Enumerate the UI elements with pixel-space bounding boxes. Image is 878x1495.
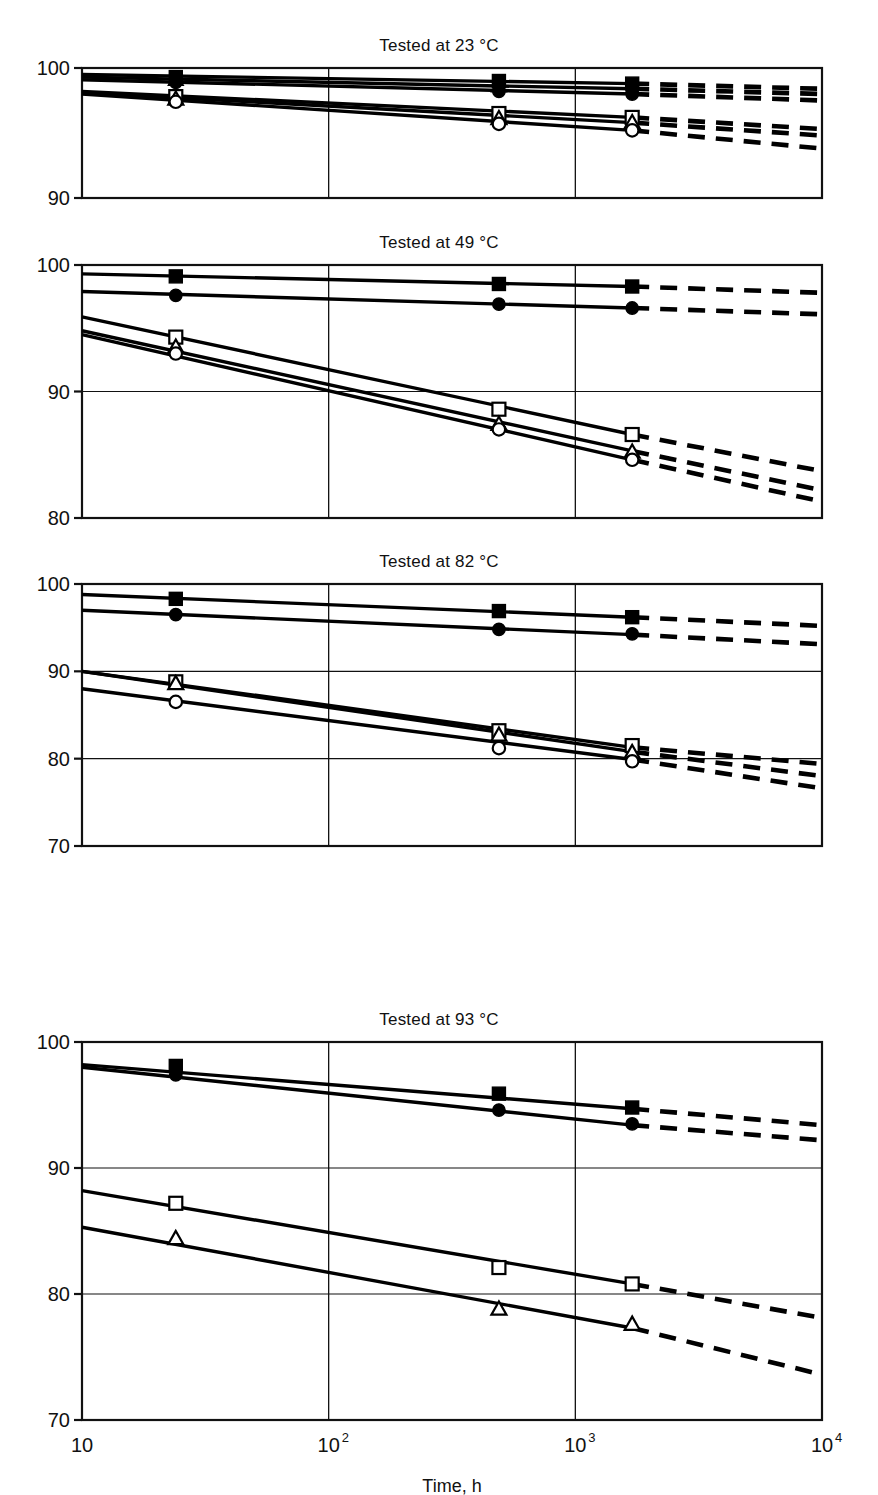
data-point-filled-circle xyxy=(626,302,638,314)
x-tick-label: 10 xyxy=(318,1434,340,1456)
data-point-filled-circle xyxy=(170,1069,182,1081)
data-point-open-circle xyxy=(170,96,182,108)
series-line-open-triangle xyxy=(82,93,632,123)
data-point-filled-circle xyxy=(493,623,505,635)
data-point-filled-square xyxy=(492,277,505,290)
series-extrapolation-open-square xyxy=(632,1284,822,1318)
series-extrapolation-open-circle xyxy=(632,460,822,502)
x-axis-title: Time, h xyxy=(422,1476,481,1495)
data-point-open-circle xyxy=(493,742,505,754)
data-point-filled-circle xyxy=(170,289,182,301)
series-line-open-square xyxy=(82,317,632,435)
x-tick-label: 10 xyxy=(564,1434,586,1456)
x-tick-exponent: 2 xyxy=(342,1430,349,1445)
data-point-filled-circle xyxy=(170,76,182,88)
data-point-filled-circle xyxy=(626,1118,638,1130)
series-line-open-triangle xyxy=(82,671,632,751)
data-point-filled-circle xyxy=(493,298,505,310)
plot-area: 10090 xyxy=(0,34,878,214)
x-tick-label: 10 xyxy=(811,1434,833,1456)
series-extrapolation-filled-circle xyxy=(632,635,822,645)
y-tick-label: 90 xyxy=(48,660,70,682)
data-point-open-circle xyxy=(493,118,505,130)
data-point-filled-circle xyxy=(626,628,638,640)
plot-frame xyxy=(82,68,822,198)
data-point-filled-circle xyxy=(493,85,505,97)
y-tick-label: 70 xyxy=(48,835,70,857)
series-extrapolation-open-triangle xyxy=(632,1328,822,1375)
y-tick-label: 80 xyxy=(48,748,70,770)
series-extrapolation-filled-circle xyxy=(632,308,822,314)
plot-area: 1009080 xyxy=(0,231,878,534)
y-tick-label: 100 xyxy=(37,573,70,595)
y-tick-label: 100 xyxy=(37,57,70,79)
data-point-filled-square xyxy=(626,280,639,293)
data-point-open-square xyxy=(626,428,639,441)
data-point-open-triangle xyxy=(168,1231,183,1244)
plot-frame xyxy=(82,1042,822,1420)
series-extrapolation-filled-square xyxy=(632,1109,822,1125)
data-point-filled-square xyxy=(492,605,505,618)
y-tick-label: 80 xyxy=(48,1283,70,1305)
y-tick-label: 70 xyxy=(48,1409,70,1431)
data-point-filled-square xyxy=(169,270,182,283)
data-point-filled-square xyxy=(492,1087,505,1100)
data-point-open-circle xyxy=(170,696,182,708)
data-point-open-square xyxy=(492,403,505,416)
data-point-open-triangle xyxy=(625,1317,640,1330)
series-line-filled-circle xyxy=(82,292,632,308)
series-extrapolation-filled-circle xyxy=(632,94,822,101)
series-line-open-circle xyxy=(82,335,632,460)
y-tick-label: 100 xyxy=(37,1031,70,1053)
data-point-open-square xyxy=(492,1261,505,1274)
series-extrapolation-filled-circle xyxy=(632,1125,822,1140)
series-line-open-triangle xyxy=(82,331,632,451)
data-point-filled-square xyxy=(626,1101,639,1114)
data-point-open-square xyxy=(626,1277,639,1290)
series-line-open-triangle xyxy=(82,1227,632,1328)
x-tick-exponent: 4 xyxy=(835,1430,842,1445)
y-tick-label: 80 xyxy=(48,507,70,529)
data-point-open-square xyxy=(169,1197,182,1210)
plot-area: 100908070 xyxy=(0,550,878,862)
series-line-filled-circle xyxy=(82,1067,632,1125)
series-line-filled-square xyxy=(82,274,632,287)
series-line-filled-square xyxy=(82,1065,632,1109)
plot-frame xyxy=(82,584,822,846)
series-extrapolation-filled-square xyxy=(632,287,822,293)
y-tick-label: 90 xyxy=(48,187,70,209)
data-point-filled-square xyxy=(626,611,639,624)
series-extrapolation-filled-square xyxy=(632,617,822,626)
x-tick-label: 10 xyxy=(71,1434,93,1456)
data-point-filled-circle xyxy=(170,608,182,620)
y-tick-label: 90 xyxy=(48,381,70,403)
data-point-filled-square xyxy=(169,592,182,605)
plot-area: 10090807010102103104Time, h xyxy=(0,1008,878,1495)
data-point-open-circle xyxy=(626,755,638,767)
data-point-open-circle xyxy=(493,423,505,435)
data-point-filled-circle xyxy=(493,1104,505,1116)
series-extrapolation-open-triangle xyxy=(632,451,822,490)
series-line-open-circle xyxy=(82,689,632,760)
data-point-open-circle xyxy=(170,347,182,359)
data-point-open-circle xyxy=(626,454,638,466)
y-tick-label: 90 xyxy=(48,1157,70,1179)
series-line-open-square xyxy=(82,1191,632,1284)
y-tick-label: 100 xyxy=(37,254,70,276)
data-point-open-circle xyxy=(626,124,638,136)
x-tick-exponent: 3 xyxy=(588,1430,595,1445)
series-extrapolation-open-circle xyxy=(632,130,822,148)
data-point-filled-circle xyxy=(626,88,638,100)
